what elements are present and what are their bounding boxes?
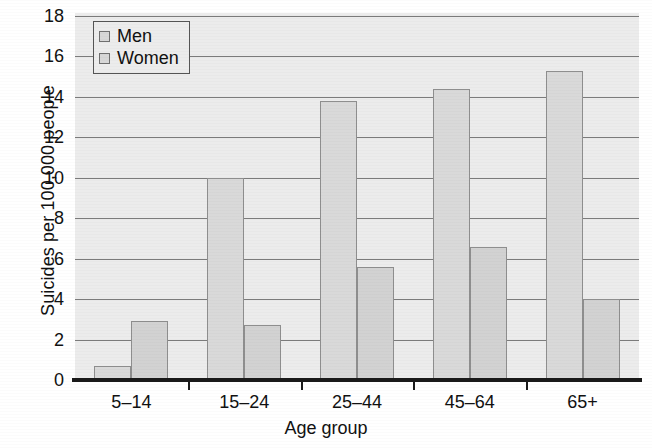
legend-item-men: Men: [99, 25, 179, 47]
bar-men-2: [320, 101, 357, 380]
bar-men-1: [207, 178, 244, 380]
legend-swatch-women-icon: [99, 53, 110, 64]
bar-men-3: [433, 89, 470, 380]
bar-women-3: [470, 247, 507, 380]
legend-label-women: Women: [117, 49, 179, 67]
x-tick-mark: [526, 382, 528, 390]
legend-label-men: Men: [117, 27, 152, 45]
y-tick-label: 10: [20, 167, 64, 188]
x-tick-mark: [301, 382, 303, 390]
x-tick-label: 25–44: [332, 392, 382, 413]
y-tick-label: 18: [20, 6, 64, 27]
bar-women-1: [244, 325, 281, 380]
bar-chart-figure: Suicides per 100,000 people 024681012141…: [0, 0, 652, 448]
y-tick-label: 0: [20, 370, 64, 391]
plot-area: Men Women: [75, 13, 639, 380]
y-tick-label: 2: [20, 329, 64, 350]
x-tick-label: 65+: [567, 392, 598, 413]
y-tick-label: 4: [20, 289, 64, 310]
legend-item-women: Women: [99, 47, 179, 69]
bar-women-2: [357, 267, 394, 380]
bar-women-0: [131, 321, 168, 380]
y-tick-label: 16: [20, 46, 64, 67]
x-tick-label: 5–14: [111, 392, 151, 413]
bar-women-4: [583, 299, 620, 380]
bar-men-4: [546, 71, 583, 380]
legend-swatch-men-icon: [99, 31, 110, 42]
legend: Men Women: [93, 21, 190, 74]
y-tick-label: 6: [20, 248, 64, 269]
y-axis-ticks: 024681012141618: [14, 0, 64, 448]
x-axis-line: [72, 378, 642, 382]
x-tick-mark: [413, 382, 415, 390]
y-tick-label: 8: [20, 208, 64, 229]
y-tick-label: 12: [20, 127, 64, 148]
y-tick-label: 14: [20, 86, 64, 107]
x-tick-mark: [188, 382, 190, 390]
gridline: [75, 16, 639, 17]
x-tick-label: 45–64: [445, 392, 495, 413]
x-tick-label: 15–24: [219, 392, 269, 413]
x-axis-label: Age group: [0, 418, 652, 439]
